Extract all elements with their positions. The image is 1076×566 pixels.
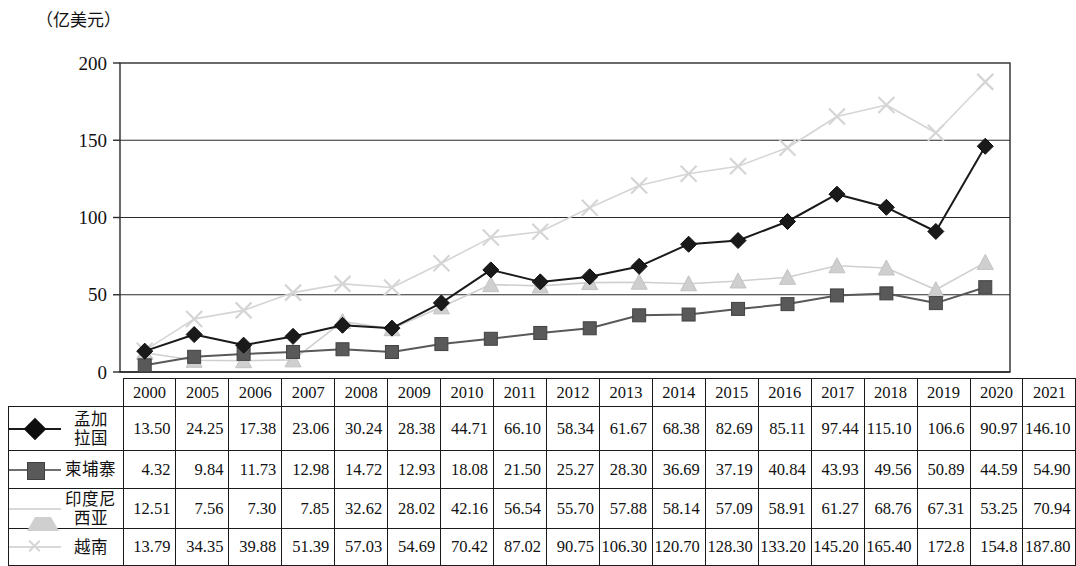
data-point (929, 297, 942, 310)
data-cell: 28.38 (388, 407, 441, 451)
data-cell: 106.30 (599, 529, 652, 566)
data-value: 165.40 (866, 537, 911, 556)
year-label: 2011 (504, 383, 536, 402)
year-header-2010: 2010 (441, 379, 494, 407)
year-header-2008: 2008 (335, 379, 388, 407)
data-cell: 9.84 (176, 451, 229, 489)
data-value: 50.89 (927, 460, 964, 479)
data-cell: 24.25 (176, 407, 229, 451)
data-value: 54.69 (398, 537, 435, 556)
data-cell: 57.09 (705, 489, 758, 529)
data-value: 90.75 (557, 537, 594, 556)
data-cell: 39.88 (229, 529, 282, 566)
year-label: 2013 (609, 383, 642, 402)
data-cell: 44.71 (441, 407, 494, 451)
data-value: 14.72 (345, 460, 382, 479)
data-cell: 154.8 (970, 529, 1023, 566)
legend-entry: 孟加拉国 (9, 407, 121, 450)
data-cell: 4.32 (123, 451, 176, 489)
year-label: 2008 (345, 383, 378, 402)
data-value: 9.84 (195, 460, 224, 479)
data-value: 17.38 (239, 419, 276, 438)
data-point (781, 298, 794, 311)
data-cell: 30.24 (335, 407, 388, 451)
data-value: 85.11 (769, 419, 806, 438)
data-value: 34.35 (186, 537, 223, 556)
data-cell: 7.85 (282, 489, 335, 529)
data-value: 54.90 (1033, 460, 1070, 479)
table-row: 孟加拉国13.5024.2517.3823.0630.2428.3844.716… (9, 407, 1076, 451)
data-cell: 85.11 (758, 407, 811, 451)
data-value: 12.51 (133, 499, 170, 518)
data-cell: 54.69 (388, 529, 441, 566)
data-point (534, 326, 547, 339)
table-row: 柬埔寨4.329.8411.7312.9814.7212.9318.0821.5… (9, 451, 1076, 489)
legend-entry: 越南 (9, 529, 121, 565)
data-cell: 56.54 (494, 489, 547, 529)
data-cell: 146.10 (1023, 407, 1076, 451)
year-header-2017: 2017 (811, 379, 864, 407)
year-header-2005: 2005 (176, 379, 229, 407)
data-cell: 13.50 (123, 407, 176, 451)
data-cell: 58.34 (547, 407, 600, 451)
data-value: 39.88 (239, 537, 276, 556)
data-value: 24.25 (186, 419, 223, 438)
data-value: 97.44 (822, 419, 859, 438)
data-cell: 50.89 (917, 451, 970, 489)
year-label: 2020 (980, 383, 1013, 402)
data-value: 36.69 (663, 460, 700, 479)
year-header-2011: 2011 (494, 379, 547, 407)
data-value: 13.50 (133, 419, 170, 438)
data-value: 154.8 (980, 537, 1017, 556)
data-cell: 70.42 (441, 529, 494, 566)
data-value: 44.71 (451, 419, 488, 438)
data-cell: 42.16 (441, 489, 494, 529)
year-header-2014: 2014 (652, 379, 705, 407)
triangle-icon (27, 501, 59, 531)
x-icon (27, 539, 43, 555)
data-value: 55.70 (557, 499, 594, 518)
data-table: 2000200520062007200820092010201120122013… (8, 378, 1076, 566)
data-cell: 23.06 (282, 407, 335, 451)
data-value: 53.25 (980, 499, 1017, 518)
data-value: 115.10 (867, 419, 912, 438)
year-label: 2019 (927, 383, 960, 402)
data-cell: 40.84 (758, 451, 811, 489)
square-icon (27, 462, 45, 480)
data-cell: 13.79 (123, 529, 176, 566)
data-cell: 68.76 (864, 489, 917, 529)
legend-label: 孟加拉国 (61, 410, 121, 448)
legend-label: 柬埔寨 (61, 460, 121, 479)
data-cell: 14.72 (335, 451, 388, 489)
data-cell: 18.08 (441, 451, 494, 489)
data-point (830, 289, 843, 302)
chart-svg: 050100150200 (0, 30, 1063, 380)
data-value: 18.08 (451, 460, 488, 479)
data-value: 66.10 (504, 419, 541, 438)
year-label: 2012 (556, 383, 589, 402)
data-value: 57.03 (345, 537, 382, 556)
data-value: 70.94 (1033, 499, 1070, 518)
data-value: 49.56 (874, 460, 911, 479)
year-label: 2009 (398, 383, 431, 402)
table-row: 印度尼西亚12.517.567.307.8532.6228.0242.1656.… (9, 489, 1076, 529)
data-cell: 61.27 (811, 489, 864, 529)
data-cell: 106.6 (917, 407, 970, 451)
year-header-2019: 2019 (917, 379, 970, 407)
year-label: 2021 (1033, 383, 1066, 402)
data-cell: 37.19 (705, 451, 758, 489)
data-cell: 32.62 (335, 489, 388, 529)
data-cell: 67.31 (917, 489, 970, 529)
y-tick-label: 200 (79, 53, 108, 74)
year-label: 2000 (133, 383, 166, 402)
data-cell: 54.90 (1023, 451, 1076, 489)
data-cell: 66.10 (494, 407, 547, 451)
data-cell: 87.02 (494, 529, 547, 566)
data-value: 42.16 (451, 499, 488, 518)
data-point (435, 338, 448, 351)
data-value: 25.27 (557, 460, 594, 479)
data-cell: 36.69 (652, 451, 705, 489)
diamond-icon (24, 417, 47, 440)
data-value: 51.39 (292, 537, 329, 556)
year-label: 2015 (715, 383, 748, 402)
